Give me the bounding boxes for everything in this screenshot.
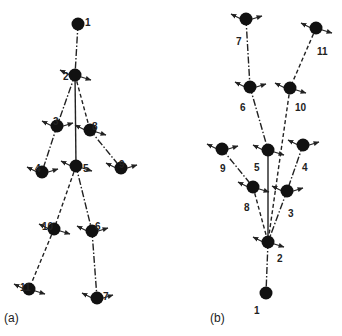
joint-node-4 — [297, 139, 310, 152]
edge-5-6 — [76, 166, 92, 231]
edge-8-2 — [253, 187, 268, 242]
edge-2-1 — [266, 242, 268, 293]
skeleton-diagram-canvas: 1238459106117(a) 7116109548321(b) — [0, 0, 342, 336]
panel-caption: (b) — [210, 311, 225, 325]
joint-label: 4 — [302, 162, 308, 173]
edge-10-2 — [268, 88, 290, 242]
joint-node-5 — [262, 144, 275, 157]
joint-node-8 — [247, 181, 260, 194]
edge-2-8 — [75, 75, 90, 130]
joint-label: 3 — [288, 208, 294, 219]
joint-node-11 — [310, 22, 323, 35]
joint-label: 6 — [95, 221, 101, 232]
edge-5-10 — [54, 166, 76, 229]
joint-label: 7 — [236, 36, 242, 47]
joint-label: 4 — [35, 163, 41, 174]
joint-label: 6 — [240, 102, 246, 113]
joint-label: 7 — [103, 291, 109, 302]
joint-node-10 — [284, 82, 297, 95]
joint-node-9 — [216, 143, 229, 156]
joint-node-7 — [240, 13, 253, 26]
diagram-a: 1238459106117(a) — [4, 17, 137, 325]
joint-node-1 — [72, 18, 85, 31]
joint-node-2 — [69, 69, 82, 82]
joint-label: 9 — [220, 163, 226, 174]
diagram-b: 7116109548321(b) — [207, 13, 332, 326]
joint-label: 1 — [85, 17, 91, 28]
edge-7-6 — [246, 19, 250, 87]
joint-label: 3 — [53, 116, 59, 127]
edge-6-7 — [92, 231, 97, 298]
joint-label: 5 — [254, 162, 260, 173]
joint-node-1 — [260, 287, 273, 300]
joint-label: 11 — [317, 46, 328, 57]
joint-label: 10 — [295, 102, 307, 113]
edge-1-2 — [75, 24, 78, 75]
joint-label: 5 — [83, 163, 89, 174]
joint-label: 9 — [119, 159, 125, 170]
edge-10-11 — [29, 229, 54, 289]
edge-4-3 — [287, 145, 303, 191]
edge-3-4 — [42, 126, 57, 172]
edge-2-5 — [75, 75, 76, 166]
joint-label: 1 — [254, 305, 260, 316]
joint-node-5 — [70, 160, 83, 173]
joint-node-6 — [244, 81, 257, 94]
joint-node-2 — [262, 236, 275, 249]
edge-6-5 — [250, 87, 268, 150]
joint-label: 11 — [20, 282, 31, 293]
joint-label: 2 — [277, 253, 283, 264]
edge-11-10 — [290, 28, 316, 88]
joint-node-3 — [281, 185, 294, 198]
joint-node-7 — [91, 292, 104, 305]
edge-3-2 — [268, 191, 287, 242]
edge-2-3 — [57, 75, 75, 126]
joint-label: 2 — [63, 71, 69, 82]
panel-caption: (a) — [4, 311, 19, 325]
joint-label: 8 — [244, 202, 250, 213]
joint-label: 10 — [42, 221, 54, 232]
edge-9-8 — [222, 149, 253, 187]
joint-label: 8 — [92, 121, 98, 132]
edge-8-9 — [90, 130, 121, 168]
